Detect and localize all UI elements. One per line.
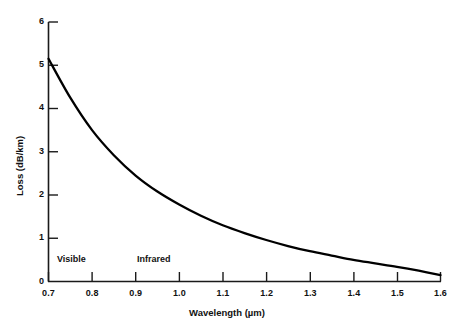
y-axis-ticks: [49, 22, 59, 238]
y-tick-label-6: 6: [28, 16, 44, 26]
chart-plot-area: [0, 0, 454, 333]
x-tick-label-0-7: 0.7: [34, 288, 64, 298]
y-tick-label-2: 2: [28, 189, 44, 199]
x-tick-label-1-3: 1.3: [295, 288, 325, 298]
x-tick-label-0-9: 0.9: [121, 288, 151, 298]
x-tick-label-1-2: 1.2: [252, 288, 282, 298]
x-tick-label-1-4: 1.4: [339, 288, 369, 298]
x-axis-title: Wavelength (µm): [0, 307, 454, 318]
chart-figure: 6 5 4 3 2 1 0 0.7 0.8 0.9 1.0 1.1 1.2 1.…: [0, 0, 454, 333]
y-tick-label-4: 4: [28, 102, 44, 112]
region-label-infrared: Infrared: [137, 254, 171, 264]
y-tick-label-0: 0: [28, 276, 44, 286]
x-tick-label-1-0: 1.0: [164, 288, 194, 298]
attenuation-curve: [49, 59, 441, 275]
x-tick-label-1-5: 1.5: [383, 288, 413, 298]
x-tick-label-0-8: 0.8: [77, 288, 107, 298]
y-tick-label-5: 5: [28, 59, 44, 69]
y-tick-label-1: 1: [28, 232, 44, 242]
y-tick-label-3: 3: [28, 146, 44, 156]
x-tick-label-1-6: 1.6: [426, 288, 454, 298]
y-axis-title: Loss (dB/km): [14, 136, 25, 196]
x-tick-label-1-1: 1.1: [208, 288, 238, 298]
region-label-visible: Visible: [57, 254, 86, 264]
x-axis-ticks: [49, 272, 441, 282]
